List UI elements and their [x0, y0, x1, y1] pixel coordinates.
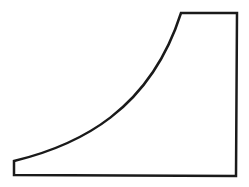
- diagram-canvas: [0, 0, 249, 187]
- ramp-profile-shape: [0, 0, 249, 187]
- ramp-outline: [14, 13, 237, 176]
